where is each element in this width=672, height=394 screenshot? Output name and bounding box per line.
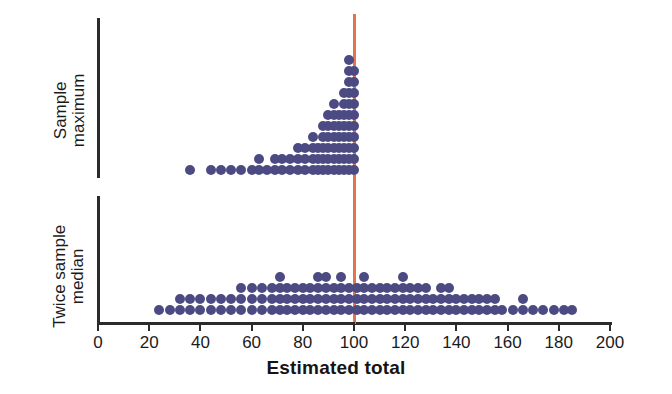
- dot-twice-sample-median: [195, 294, 205, 304]
- dot-sample-maximum: [226, 165, 236, 175]
- dot-twice-sample-median: [247, 305, 257, 315]
- dot-twice-sample-median: [321, 272, 331, 282]
- dot-twice-sample-median: [275, 272, 285, 282]
- dot-plot-points: [0, 0, 672, 394]
- dot-twice-sample-median: [421, 283, 431, 293]
- dot-twice-sample-median: [175, 305, 185, 315]
- dot-sample-maximum: [349, 99, 359, 109]
- dot-twice-sample-median: [549, 305, 559, 315]
- dot-twice-sample-median: [154, 305, 164, 315]
- dot-sample-maximum: [349, 121, 359, 131]
- dot-twice-sample-median: [247, 283, 257, 293]
- dot-twice-sample-median: [538, 305, 548, 315]
- dot-twice-sample-median: [497, 305, 507, 315]
- dot-sample-maximum: [254, 154, 264, 164]
- dot-sample-maximum: [206, 165, 216, 175]
- dot-twice-sample-median: [185, 294, 195, 304]
- dot-twice-sample-median: [175, 294, 185, 304]
- dot-sample-maximum: [216, 165, 226, 175]
- dot-sample-maximum: [308, 132, 318, 142]
- dot-twice-sample-median: [567, 305, 577, 315]
- dot-twice-sample-median: [206, 305, 216, 315]
- dot-sample-maximum: [236, 165, 246, 175]
- dot-twice-sample-median: [216, 305, 226, 315]
- dot-twice-sample-median: [444, 283, 454, 293]
- dot-twice-sample-median: [490, 294, 500, 304]
- dot-sample-maximum: [344, 55, 354, 65]
- dot-twice-sample-median: [226, 294, 236, 304]
- dot-twice-sample-median: [257, 283, 267, 293]
- dot-twice-sample-median: [247, 294, 257, 304]
- dot-sample-maximum: [349, 110, 359, 120]
- dot-twice-sample-median: [398, 272, 408, 282]
- dot-twice-sample-median: [195, 305, 205, 315]
- dot-twice-sample-median: [236, 283, 246, 293]
- dot-twice-sample-median: [185, 305, 195, 315]
- dot-twice-sample-median: [226, 305, 236, 315]
- dot-twice-sample-median: [336, 272, 346, 282]
- dot-twice-sample-median: [508, 305, 518, 315]
- dot-twice-sample-median: [518, 294, 528, 304]
- dot-sample-maximum: [349, 143, 359, 153]
- dot-sample-maximum: [329, 99, 339, 109]
- dot-twice-sample-median: [257, 305, 267, 315]
- dot-twice-sample-median: [528, 305, 538, 315]
- dot-twice-sample-median: [206, 294, 216, 304]
- x-axis-title: Estimated total: [0, 357, 672, 379]
- dot-sample-maximum: [349, 132, 359, 142]
- dot-sample-maximum: [349, 66, 359, 76]
- dot-twice-sample-median: [216, 294, 226, 304]
- dot-twice-sample-median: [359, 272, 369, 282]
- dot-sample-maximum: [349, 165, 359, 175]
- dot-sample-maximum: [185, 165, 195, 175]
- dot-sample-maximum: [349, 77, 359, 87]
- dot-twice-sample-median: [518, 305, 528, 315]
- dot-sample-maximum: [349, 88, 359, 98]
- dot-twice-sample-median: [165, 305, 175, 315]
- dot-twice-sample-median: [236, 294, 246, 304]
- dot-sample-maximum: [349, 154, 359, 164]
- dotplot-figure: Sample maximum Twice sample median 02040…: [0, 0, 672, 394]
- dot-twice-sample-median: [236, 305, 246, 315]
- dot-twice-sample-median: [257, 294, 267, 304]
